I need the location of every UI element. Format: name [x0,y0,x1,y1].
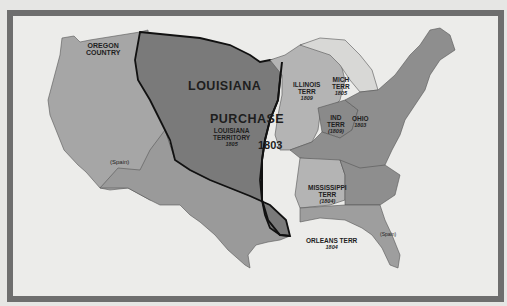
ohio-label: OHIO 1803 [352,116,369,129]
ohio-year: 1803 [352,123,369,129]
michigan-label: MICH TERR 1805 [332,77,350,96]
southeast-states [340,160,400,205]
ind-year: (1809) [327,129,345,135]
purchase-label: PURCHASE [210,113,284,126]
spain-florida-label: (Spain) [380,232,396,237]
illinois-year: 1809 [293,96,320,102]
orleans-label: ORLEANS TERR 1804 [306,238,357,251]
spain-west-label: (Spain) [110,159,129,165]
us-map [0,0,507,306]
orleans-year: 1804 [306,245,357,251]
lt-year: 1805 [213,142,250,148]
oregon-line1: OREGON [86,42,120,49]
mississippi-label: MISSISSIPPI TERR (1804) [308,185,347,204]
miss-year: (1804) [308,199,347,205]
purchase-year-label: 1803 [258,140,282,152]
oregon-label: OREGON COUNTRY [86,42,120,57]
oregon-line2: COUNTRY [86,49,120,56]
mich-year: 1805 [332,91,350,97]
indiana-label: IND TERR (1809) [327,115,345,134]
louisiana-label: LOUISIANA [188,80,261,93]
louisiana-territory-label: LOUISIANA TERRITORY 1805 [213,128,250,147]
illinois-label: ILLINOIS TERR 1809 [293,82,320,101]
